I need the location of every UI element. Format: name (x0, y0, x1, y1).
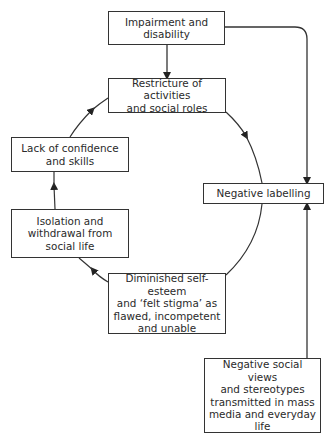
arrow-diminished-isolation (93, 270, 108, 282)
node-restricture: Restricture of activities and social rol… (108, 78, 226, 113)
arrow-labelling-diminished (226, 204, 262, 275)
node-lack: Lack of confidence and skills (11, 137, 129, 172)
arrow-isolation-lack (54, 186, 55, 209)
node-diminished: Diminished self-esteem and ‘felt stigma’… (108, 273, 226, 334)
node-labelling: Negative labelling (203, 183, 324, 204)
arrow-restricture-labelling (226, 112, 246, 136)
node-isolation: Isolation and withdrawal from social lif… (11, 209, 129, 258)
arrow-lack-restricture (70, 110, 92, 137)
node-impairment: Impairment and disability (108, 11, 225, 45)
arrow-impairment-labelling (225, 27, 307, 181)
node-views: Negative social views and stereotypes tr… (204, 358, 321, 433)
